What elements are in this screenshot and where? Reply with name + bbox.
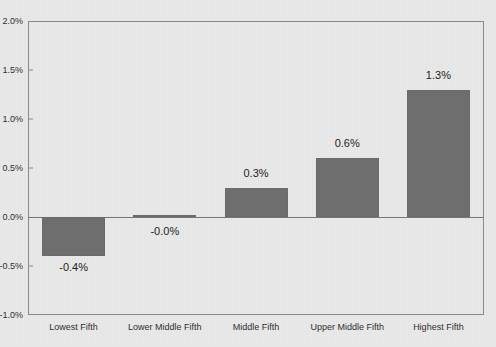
- y-tick-label: 2.0%: [2, 16, 23, 26]
- category-label: Lower Middle Fifth: [128, 322, 202, 332]
- bar[interactable]: [407, 90, 470, 217]
- category-label: Middle Fifth: [233, 322, 280, 332]
- category-label: Lowest Fifth: [49, 322, 98, 332]
- category-label: Highest Fifth: [413, 322, 464, 332]
- bar-value-label: 0.3%: [243, 167, 268, 179]
- y-tick-label: 1.5%: [2, 65, 23, 75]
- y-tick-label: 0.5%: [2, 163, 23, 173]
- bar[interactable]: [316, 158, 379, 217]
- bar[interactable]: [225, 188, 288, 217]
- y-tick-label: -0.5%: [0, 261, 23, 271]
- bar[interactable]: [42, 217, 105, 256]
- y-tick-label: 1.0%: [2, 114, 23, 124]
- bar-value-label: -0.4%: [59, 261, 88, 273]
- chart-figure: 2.0%1.5%1.0%0.5%0.0%-0.5%-1.0% -0.4%Lowe…: [0, 0, 496, 347]
- y-tick-label: -1.0%: [0, 310, 23, 320]
- category-label: Upper Middle Fifth: [310, 322, 384, 332]
- bar[interactable]: [133, 215, 196, 217]
- bar-value-label: 1.3%: [426, 69, 451, 81]
- y-axis: 2.0%1.5%1.0%0.5%0.0%-0.5%-1.0%: [0, 0, 28, 347]
- bar-value-label: -0.0%: [150, 225, 179, 237]
- bar-value-label: 0.6%: [335, 137, 360, 149]
- y-tick-label: 0.0%: [2, 212, 23, 222]
